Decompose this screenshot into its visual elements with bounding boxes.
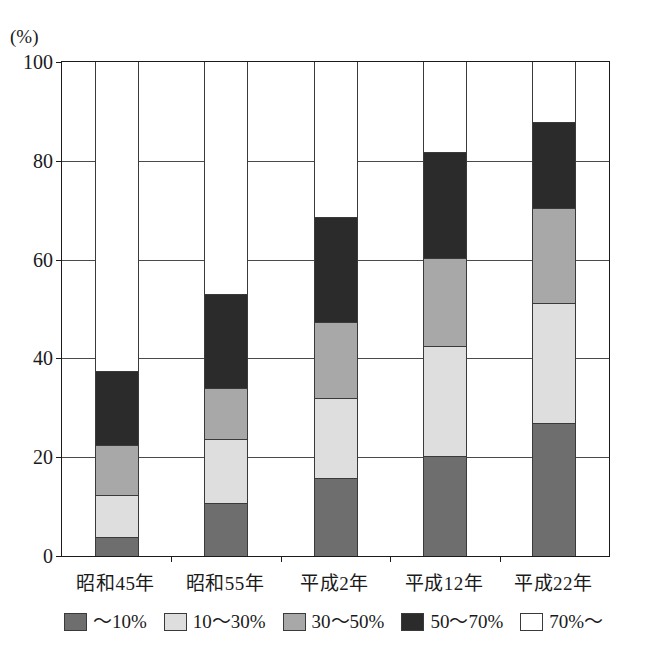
bar-segment [204,388,248,440]
bar-segment [423,62,467,152]
y-tick-mark [56,62,62,63]
bar-segment [95,495,139,537]
bar-平成22年 [532,62,576,556]
bar-segment [314,478,358,556]
legend-item: 50～70% [401,612,503,631]
bar-昭和55年 [204,62,248,556]
bar-segment [95,445,139,495]
x-axis-label: 昭和45年 [76,568,155,595]
bar-segment [204,503,248,556]
legend-item: 70%～ [520,612,603,631]
bar-segment [423,152,467,258]
bar-segment [314,217,358,322]
legend-item: 10～30% [164,612,266,631]
legend-swatch-icon [164,613,187,631]
legend-swatch-icon [283,613,306,631]
y-tick-mark [56,457,62,458]
y-tick-mark [56,358,62,359]
chart-legend: ～10%10～30%30～50%50～70%70%～ [0,612,667,631]
bar-平成2年 [314,62,358,556]
legend-swatch-icon [401,613,424,631]
bar-segment [532,423,576,556]
y-tick-label: 80 [33,151,53,171]
y-tick-mark [56,161,62,162]
y-tick-label: 60 [33,250,53,270]
bar-segment [314,62,358,217]
legend-swatch-icon [520,613,543,631]
bar-segment [532,122,576,208]
bar-segment [204,294,248,388]
bar-平成12年 [423,62,467,556]
x-axis-label: 昭和55年 [186,568,265,595]
x-axis-label: 平成22年 [514,568,593,595]
bar-segment [314,322,358,398]
bar-segment [532,303,576,423]
y-tick-label: 100 [23,52,53,72]
bar-segment [95,537,139,556]
x-tick-mark [171,556,172,562]
bar-segment [314,398,358,478]
bar-segment [95,371,139,445]
x-tick-mark [390,556,391,562]
y-tick-label: 20 [33,447,53,467]
y-tick-mark [56,556,62,557]
bar-segment [204,62,248,294]
bar-segment [423,258,467,346]
bar-segment [532,208,576,303]
legend-label: 50～70% [430,612,503,631]
x-tick-mark [500,556,501,562]
legend-item: ～10% [64,612,147,631]
y-tick-label: 40 [33,348,53,368]
legend-swatch-icon [64,613,87,631]
y-axis-unit-label: (%) [10,26,38,48]
bar-segment [204,439,248,503]
plot-area: 020406080100 [61,61,610,557]
bar-segment [95,62,139,371]
y-tick-label: 0 [43,546,53,566]
x-axis-label: 平成12年 [405,568,484,595]
x-axis-label: 平成2年 [300,568,369,595]
y-tick-mark [56,260,62,261]
legend-label: 10～30% [193,612,266,631]
bar-segment [423,346,467,456]
bar-昭和45年 [95,62,139,556]
legend-label: 70%～ [549,612,603,631]
legend-item: 30～50% [283,612,385,631]
x-tick-mark [281,556,282,562]
bar-segment [532,62,576,122]
bar-segment [423,456,467,556]
stacked-bar-chart: (%) 020406080100 昭和45年昭和55年平成2年平成12年平成22… [0,0,667,664]
legend-label: 30～50% [312,612,385,631]
legend-label: ～10% [93,612,147,631]
